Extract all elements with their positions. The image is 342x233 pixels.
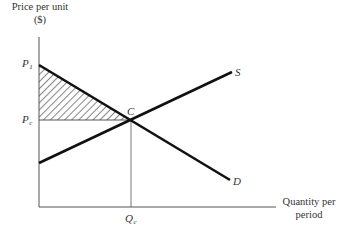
x-axis-label: Quantity per period	[276, 197, 342, 220]
demand-curve	[39, 65, 230, 180]
demand-label: D	[233, 176, 241, 187]
pc-label: Pc	[22, 114, 32, 125]
p1-label-main: P	[22, 57, 29, 69]
qc-label-main: Q	[125, 212, 133, 224]
equilibrium-label: C	[127, 106, 134, 117]
x-axis-label-line1: Quantity per	[276, 197, 342, 208]
qc-label: Qc	[125, 213, 137, 224]
qc-label-sub: c	[133, 218, 136, 226]
y-axis-label-line2: ($)	[0, 15, 80, 26]
supply-label: S	[235, 67, 241, 78]
p1-label-sub: 1	[29, 63, 33, 71]
p1-label: P1	[22, 58, 33, 69]
pc-label-main: P	[22, 113, 29, 125]
y-axis-label: Price per unit ($)	[0, 2, 80, 25]
y-axis-label-line1: Price per unit	[0, 2, 80, 13]
pc-label-sub: c	[29, 119, 32, 127]
x-axis-label-line2: period	[276, 210, 342, 221]
